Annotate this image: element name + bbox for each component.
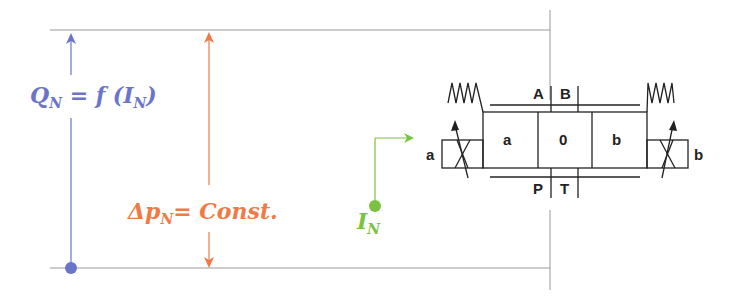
left-adjust-arrowhead	[451, 120, 459, 131]
port-t-label: T	[560, 180, 569, 197]
port-a-label: A	[533, 85, 544, 102]
pressure-formula-label: ΔpN= Const.	[128, 198, 278, 224]
solenoid-a-label: a	[426, 146, 434, 163]
port-p-label: P	[533, 180, 543, 197]
flow-origin-dot	[65, 262, 77, 274]
flow-arrow	[65, 33, 77, 274]
current-signal-arrow	[369, 133, 414, 212]
solenoid-b-label: b	[694, 146, 703, 163]
port-b-label: B	[560, 85, 571, 102]
flow-formula-label: QN = f (IN)	[30, 82, 157, 108]
current-label: IN	[357, 208, 380, 234]
diagram-canvas	[0, 0, 743, 297]
position-a-label: a	[503, 131, 511, 148]
position-0-label: 0	[559, 131, 567, 148]
position-b-label: b	[612, 131, 621, 148]
right-adjust-arrowhead	[669, 120, 677, 131]
pressure-arrow	[204, 32, 214, 268]
